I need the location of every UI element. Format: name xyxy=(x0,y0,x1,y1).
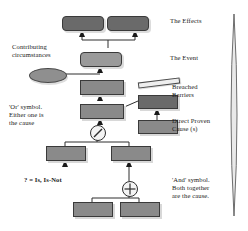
label-and-symbol-note: 'And' symbol. Both together are the caus… xyxy=(172,176,210,201)
node-and-child-left xyxy=(73,202,113,217)
arrowhead-or-child-left xyxy=(62,160,68,167)
and-gate-icon xyxy=(122,181,138,197)
label-or-symbol-note: 'Or' symbol. Either one is the cause xyxy=(9,103,44,128)
arrowhead-barrier xyxy=(154,108,160,115)
node-and-child-right xyxy=(120,202,160,217)
arrowhead-or-child-right xyxy=(126,160,132,167)
node-or-child-right xyxy=(111,146,151,161)
right-edge-sliver xyxy=(231,14,237,216)
arrowhead-effect-right xyxy=(132,30,138,37)
arrowhead-cause-1 xyxy=(97,94,103,101)
label-is-is-not-key: ? = Is, Is-Not xyxy=(24,176,62,184)
label-the-effects: The Effects xyxy=(170,17,202,25)
arrowhead-cause-2 xyxy=(97,118,103,125)
node-or-child-left xyxy=(46,146,86,161)
node-cause-level-2 xyxy=(80,104,124,119)
arrowhead-event xyxy=(97,66,103,73)
label-direct-proven-cause: Direct Proven Cause (s) xyxy=(172,117,210,133)
node-effect-left xyxy=(62,16,104,31)
label-breached-barriers: Breached Barriers xyxy=(172,83,198,99)
contributing-circumstances-oval xyxy=(29,68,67,83)
arrowhead-effect-left xyxy=(79,30,85,37)
label-contributing-circumstances: Contributing circumstances xyxy=(12,43,51,59)
node-effect-right xyxy=(107,16,149,31)
or-gate-icon xyxy=(90,125,106,141)
label-the-event: The Event xyxy=(170,54,198,62)
causal-tree-diagram: The Effects Contributing circumstances T… xyxy=(0,0,248,231)
node-event xyxy=(80,52,122,67)
node-cause-level-1 xyxy=(80,80,124,95)
